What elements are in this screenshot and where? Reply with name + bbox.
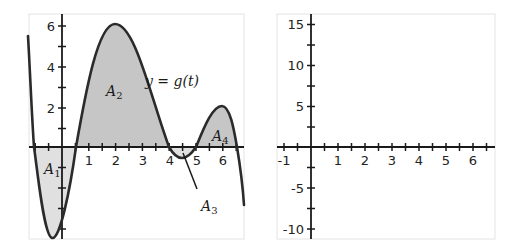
- right-x-label-5: 5: [442, 153, 450, 168]
- right-chart: -1 1 2 3 4 5 6 15 10 5 -5 -10: [277, 14, 495, 239]
- left-y-label-2: 2: [47, 101, 55, 116]
- left-y-label-4: 4: [47, 60, 55, 75]
- right-x-label-2: 2: [361, 153, 369, 168]
- left-x-label-6: 6: [219, 153, 227, 168]
- right-x-label-6: 6: [469, 153, 477, 168]
- left-x-label-4: 4: [166, 153, 174, 168]
- left-x-label-5: 5: [193, 153, 201, 168]
- left-x-label-3: 3: [139, 153, 147, 168]
- left-x-label-2: 2: [112, 153, 120, 168]
- right-x-label-neg1: -1: [278, 153, 291, 168]
- right-y-label-5: 5: [296, 99, 304, 114]
- left-y-label-6: 6: [47, 19, 55, 34]
- curve-label: y = g(t): [144, 73, 199, 89]
- left-x-label-1: 1: [85, 153, 93, 168]
- right-y-label-15: 15: [287, 17, 304, 32]
- charts-canvas: 1 2 3 4 5 6 6 4 2 A1 A2 A3 A4 y = g(t): [0, 0, 521, 252]
- right-x-label-1: 1: [334, 153, 342, 168]
- right-y-label-neg5: -5: [291, 181, 304, 196]
- right-y-label-neg10: -10: [283, 222, 304, 237]
- right-x-label-3: 3: [388, 153, 396, 168]
- right-x-label-4: 4: [415, 153, 423, 168]
- left-chart: 1 2 3 4 5 6 6 4 2 A1 A2 A3 A4 y = g(t): [28, 14, 244, 239]
- right-y-label-10: 10: [287, 58, 304, 73]
